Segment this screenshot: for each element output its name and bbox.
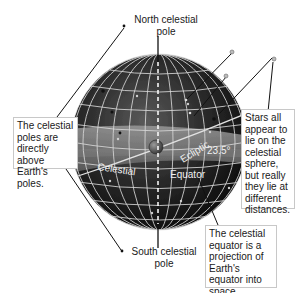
angle-label: 23.5° [207, 145, 230, 156]
north-celestial-pole-label: North celestial pole [126, 14, 206, 37]
earth-icon [149, 140, 163, 154]
equator-label: Equator [170, 169, 206, 180]
poles-callout: The celestial poles are directly above E… [13, 117, 78, 169]
stars-callout: Stars all appear to lie on the celestial… [241, 109, 295, 209]
south-celestial-pole-label: South celestial pole [124, 246, 204, 269]
equator-callout: The celestial equator is a projection of… [205, 225, 277, 288]
